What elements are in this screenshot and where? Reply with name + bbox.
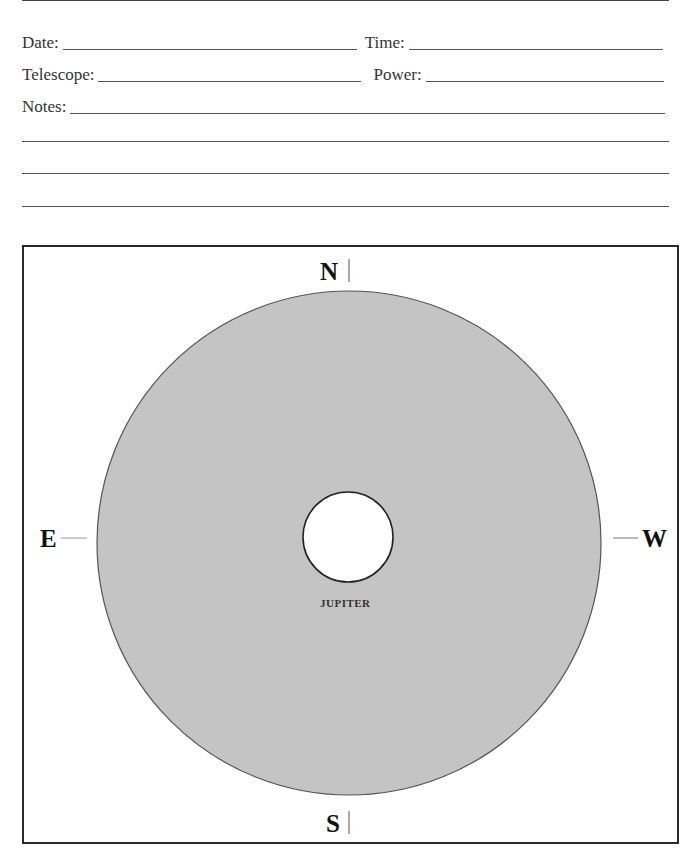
observation-diagram	[0, 0, 697, 859]
north-label: N	[320, 259, 338, 284]
planet-disc	[303, 492, 393, 582]
east-label: E	[40, 526, 57, 551]
planet-label: JUPITER	[320, 597, 371, 609]
south-label: S	[326, 811, 340, 836]
west-label: W	[642, 526, 667, 551]
